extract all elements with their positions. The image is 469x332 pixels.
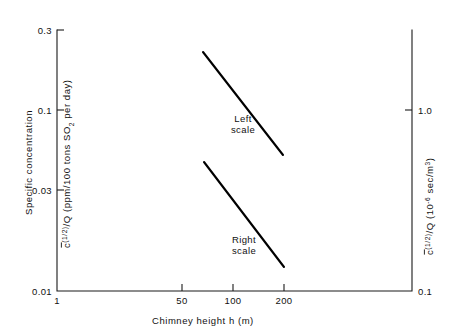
ry-exp2: -6	[424, 197, 431, 204]
y-inner-exp: (1/2)	[61, 226, 69, 242]
bottom-tick-label-1: 50	[176, 295, 187, 306]
left-tick-label-1: 0.1	[38, 105, 52, 116]
right-tick-label-0: 1.0	[418, 105, 432, 116]
bottom-axis-ticks	[182, 284, 284, 291]
left-tick-label-0: 0.3	[38, 25, 52, 36]
left-tick-label-3: 0.01	[32, 286, 52, 297]
bottom-tick-label-2: 100	[225, 295, 242, 306]
data-line-left-scale	[203, 52, 283, 155]
right-tick-label-1: 0.1	[418, 286, 432, 297]
y-axis-inner-title: c(1/2)/Q (ppm/100 tons SO2 per day)	[61, 79, 75, 248]
chart-plot-area: 0.3 0.1 0.03 0.01 1.0 0.1 1 50 100 200 C…	[0, 0, 469, 332]
x-axis-title: Chimney height h (m)	[152, 315, 254, 326]
annotation-right-scale-line1: Right	[232, 234, 256, 245]
ry-main: /Q (10	[424, 204, 435, 234]
chart-figure: 0.3 0.1 0.03 0.01 1.0 0.1 1 50 100 200 C…	[0, 0, 469, 332]
y-inner-main: /Q (ppm/100 tons SO	[61, 126, 72, 226]
y-axis-outer-title: Specific concentration	[23, 110, 34, 215]
bottom-tick-label-3: 200	[276, 295, 293, 306]
annotation-left-scale-line2: scale	[231, 124, 255, 135]
ry-tail: sec/m	[424, 165, 435, 196]
left-tick-label-2: 0.03	[32, 185, 52, 196]
svg-text:c(1/2)/Q (10-6 sec/m3): c(1/2)/Q (10-6 sec/m3)	[424, 157, 436, 255]
ry-exp: (1/2)	[424, 233, 432, 249]
annotation-right-scale-line2: scale	[232, 245, 256, 256]
svg-text:c(1/2)/Q (ppm/100 tons SO2 pe: c(1/2)/Q (ppm/100 tons SO2 per day)	[61, 79, 75, 248]
y-inner-tail: per day)	[61, 79, 72, 121]
right-y-axis-title: c(1/2)/Q (10-6 sec/m3)	[424, 157, 436, 255]
annotation-left-scale-line1: Left	[234, 113, 251, 124]
bottom-tick-label-0: 1	[54, 295, 60, 306]
ry-close: )	[424, 157, 435, 161]
